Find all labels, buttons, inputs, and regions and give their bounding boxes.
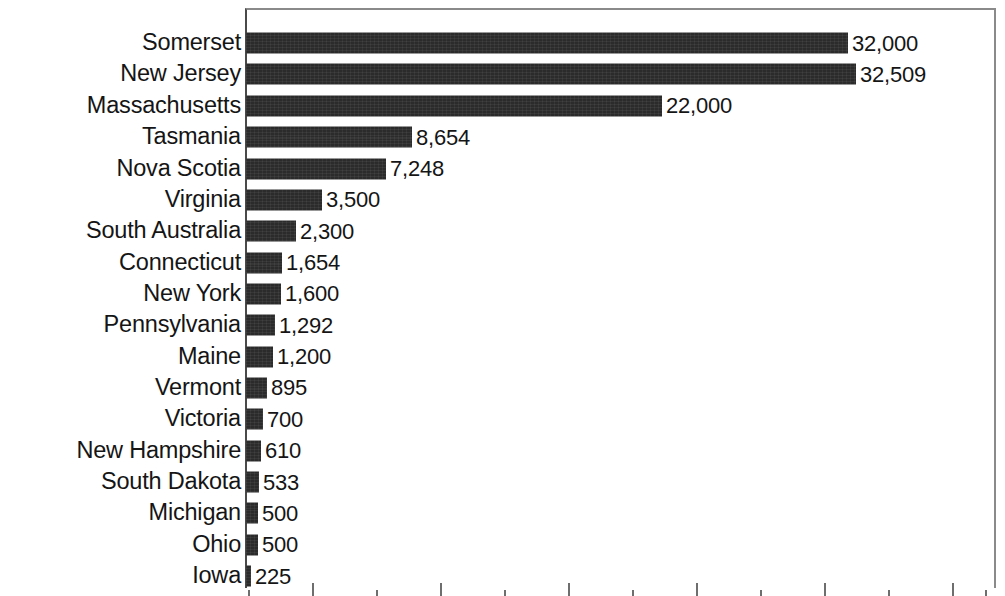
category-label: New Jersey <box>120 63 241 87</box>
bar <box>246 409 263 430</box>
category-label: Iowa <box>192 564 241 588</box>
bar-and-value: 1,200 <box>246 346 331 367</box>
axis-tick-major <box>824 583 826 596</box>
bar-and-value: 895 <box>246 377 307 398</box>
chart-row: Somerset32,000 <box>0 28 1005 59</box>
axis-tick-minor <box>760 590 762 596</box>
value-label: 7,248 <box>386 158 444 180</box>
value-label: 533 <box>259 471 299 493</box>
chart-row: Tasmania8,654 <box>0 122 1005 153</box>
value-label: 1,654 <box>282 252 340 274</box>
bar <box>246 127 412 148</box>
value-label: 1,292 <box>275 314 333 336</box>
axis-tick-major <box>952 583 954 596</box>
bar-and-value: 32,000 <box>246 33 918 54</box>
category-label: Ohio <box>192 533 241 557</box>
axis-tick-minor <box>632 590 634 596</box>
chart-row: Connecticut1,654 <box>0 247 1005 278</box>
bar-and-value: 1,600 <box>246 283 339 304</box>
bar <box>246 503 258 524</box>
bar <box>246 346 273 367</box>
bar <box>246 283 281 304</box>
bar-and-value: 2,300 <box>246 221 354 242</box>
bar-and-value: 32,509 <box>246 64 926 85</box>
bar-and-value: 8,654 <box>246 127 470 148</box>
category-label: Victoria <box>165 408 241 432</box>
bar-and-value: 500 <box>246 503 298 524</box>
value-label: 1,600 <box>281 283 339 305</box>
value-label: 500 <box>258 534 298 556</box>
category-label: Vermont <box>155 376 241 400</box>
bar-and-value: 3,500 <box>246 189 380 210</box>
category-label: Virginia <box>165 188 241 212</box>
axis-tick-major <box>312 583 314 596</box>
chart-row: New Hampshire610 <box>0 435 1005 466</box>
bar <box>246 377 267 398</box>
category-label: Maine <box>178 345 241 369</box>
category-label: New Hampshire <box>76 439 241 463</box>
chart-row: Ohio500 <box>0 529 1005 560</box>
chart-rows: Somerset32,000New Jersey32,509Massachuse… <box>0 0 1005 596</box>
bar-and-value: 22,000 <box>246 95 732 116</box>
chart-row: Victoria700 <box>0 404 1005 435</box>
bar-and-value: 610 <box>246 440 301 461</box>
category-label: Connecticut <box>119 251 241 275</box>
chart-row: New York1,600 <box>0 278 1005 309</box>
axis-tick-minor <box>504 590 506 596</box>
chart-row: Nova Scotia7,248 <box>0 153 1005 184</box>
bar <box>246 64 856 85</box>
chart-row: South Australia2,300 <box>0 216 1005 247</box>
category-label: Nova Scotia <box>116 157 241 181</box>
category-label: Somerset <box>142 31 241 55</box>
chart-row: New Jersey32,509 <box>0 59 1005 90</box>
category-label: Massachusetts <box>87 94 241 118</box>
value-label: 8,654 <box>412 126 470 148</box>
value-label: 1,200 <box>273 346 331 368</box>
value-label: 700 <box>263 408 303 430</box>
value-label: 500 <box>258 502 298 524</box>
bar <box>246 315 275 336</box>
value-label: 2,300 <box>296 220 354 242</box>
bar <box>246 189 322 210</box>
bar <box>246 221 296 242</box>
chart-row: Maine1,200 <box>0 341 1005 372</box>
value-label: 22,000 <box>662 95 732 117</box>
category-label: Michigan <box>149 502 241 526</box>
bar-and-value: 700 <box>246 409 303 430</box>
axis-tick-major <box>568 583 570 596</box>
axis-tick-minor <box>888 590 890 596</box>
category-label: Pennsylvania <box>104 314 241 338</box>
chart-row: South Dakota533 <box>0 466 1005 497</box>
bar <box>246 95 662 116</box>
category-label: New York <box>143 282 241 306</box>
x-axis-tick-marks <box>245 583 996 596</box>
chart-row: Pennsylvania1,292 <box>0 310 1005 341</box>
category-label: South Dakota <box>101 470 241 494</box>
bar <box>246 158 386 179</box>
chart-row: Vermont895 <box>0 372 1005 403</box>
axis-tick-minor <box>248 590 250 596</box>
bar <box>246 472 259 493</box>
axis-tick-minor <box>985 590 987 596</box>
value-label: 895 <box>267 377 307 399</box>
bar <box>246 33 848 54</box>
value-label: 32,000 <box>848 32 918 54</box>
bar-and-value: 533 <box>246 472 299 493</box>
chart-row: Massachusetts22,000 <box>0 90 1005 121</box>
bar-and-value: 7,248 <box>246 158 444 179</box>
bar <box>246 440 261 461</box>
value-label: 3,500 <box>322 189 380 211</box>
bar-and-value: 1,654 <box>246 252 340 273</box>
bar-and-value: 500 <box>246 534 298 555</box>
chart-row: Michigan500 <box>0 498 1005 529</box>
category-label: South Australia <box>86 219 241 243</box>
axis-tick-major <box>696 583 698 596</box>
axis-tick-major <box>440 583 442 596</box>
value-label: 610 <box>261 440 301 462</box>
bar <box>246 534 258 555</box>
axis-tick-minor <box>376 590 378 596</box>
bar-and-value: 1,292 <box>246 315 333 336</box>
bar-chart: Somerset32,000New Jersey32,509Massachuse… <box>0 0 1005 596</box>
bar <box>246 252 282 273</box>
category-label: Tasmania <box>142 125 241 149</box>
